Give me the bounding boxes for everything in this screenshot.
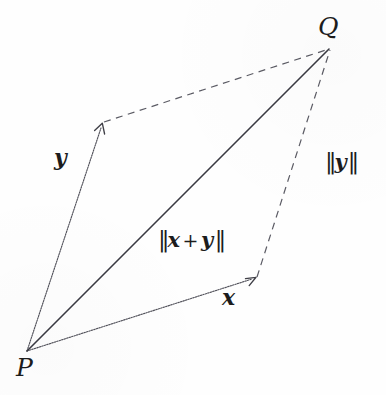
norm-xy-bar-close: ‖ — [214, 226, 225, 252]
vertex-label-q: Q — [318, 14, 339, 39]
vector-x-arrowhead — [246, 277, 257, 285]
norm-xy-bar-open: ‖ — [157, 226, 168, 252]
norm-label-x-plus-y: ‖x+y‖ — [157, 228, 224, 251]
resultant-x-plus-y-line — [27, 49, 329, 351]
norm-bar-open: ‖ — [324, 148, 335, 174]
norm-bar-close: ‖ — [347, 148, 358, 174]
vector-label-y: y — [54, 146, 67, 168]
norm-label-y: ‖y‖ — [324, 150, 357, 173]
vector-x-line — [27, 279, 252, 351]
figure-root: Q P y x ‖y‖ ‖x+y‖ — [0, 0, 386, 395]
norm-xy-vector-x: x — [168, 227, 181, 252]
norm-xy-vector-y: y — [201, 227, 214, 252]
vector-diagram-canvas — [0, 0, 386, 395]
parallel-side-top-line — [104, 49, 329, 122]
norm-xy-plus-operator: + — [181, 229, 201, 251]
vertex-label-p: P — [16, 355, 33, 380]
vector-label-x: x — [222, 286, 235, 308]
norm-vector-y: y — [335, 149, 347, 174]
